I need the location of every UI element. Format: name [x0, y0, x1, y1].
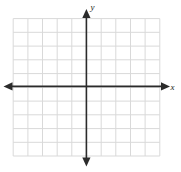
- y-axis-top-arrowhead-icon: [82, 9, 90, 18]
- y-axis-bottom-arrowhead-icon: [82, 158, 90, 167]
- coordinate-grid-figure: y x: [0, 0, 181, 172]
- x-axis-left-arrowhead-icon: [4, 82, 13, 90]
- x-axis-right-arrowhead-icon: [161, 82, 170, 90]
- x-axis-label: x: [170, 82, 175, 92]
- coordinate-plane-svg: y x: [0, 0, 181, 172]
- y-axis-label: y: [90, 2, 95, 12]
